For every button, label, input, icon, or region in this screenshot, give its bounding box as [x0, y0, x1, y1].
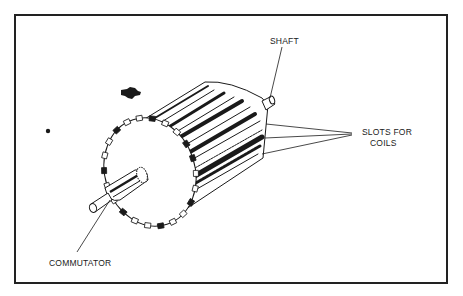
slot-notch [192, 185, 198, 192]
label-slots-for: SLOTS FOR [362, 127, 412, 137]
slot-notch [149, 116, 156, 122]
slot-notch [102, 168, 107, 174]
label-coils: COILS [370, 138, 397, 148]
slot-notch [193, 170, 198, 176]
ink-speck [121, 87, 141, 99]
slots-leader-1 [266, 124, 352, 133]
slot-notch [144, 223, 151, 229]
label-shaft: SHAFT [270, 36, 299, 46]
slot-notch [136, 115, 143, 121]
slot-notch [102, 152, 108, 159]
slot-notch [157, 223, 164, 229]
shaft-leader [270, 47, 282, 98]
label-commutator: COMMUTATOR [49, 258, 111, 268]
armature-core [90, 82, 268, 238]
ink-speck [46, 129, 50, 133]
armature-illustration: SHAFT SLOTS FOR COILS COMMUTATOR [0, 0, 463, 296]
